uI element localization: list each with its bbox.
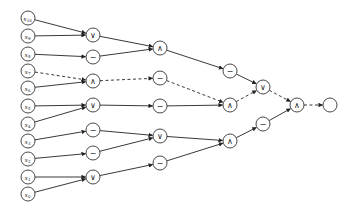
or-operator-icon: ∨ bbox=[90, 101, 96, 110]
neg-gate-node: − bbox=[86, 123, 100, 137]
edge-x5-to-g1d bbox=[35, 105, 86, 106]
output-node bbox=[323, 98, 337, 112]
edge-g3a-to-g4a bbox=[236, 74, 256, 84]
edge-g4b-to-g5a bbox=[269, 109, 290, 121]
edge-g1b-to-g2a bbox=[100, 49, 153, 56]
edge-x3-to-g1e bbox=[35, 131, 86, 140]
edge-x2-to-g1f bbox=[35, 154, 86, 159]
edge-g1f-to-g2d bbox=[100, 138, 153, 151]
edge-g1g-to-g2e bbox=[100, 165, 153, 176]
and-operator-icon: ∧ bbox=[157, 44, 163, 53]
neg-gate-node: − bbox=[153, 99, 167, 113]
neg-operator-icon: − bbox=[227, 67, 234, 76]
and-gate-node: ∧ bbox=[153, 41, 167, 55]
edge-g2c-to-g3b bbox=[167, 105, 223, 106]
neg-operator-icon: − bbox=[90, 53, 97, 62]
or-gate-node: ∨ bbox=[86, 98, 100, 112]
edge-g1e-to-g2d bbox=[100, 131, 153, 136]
input-node-x2: x2 bbox=[21, 152, 35, 166]
input-node-x3: x3 bbox=[21, 134, 35, 148]
or-operator-icon: ∨ bbox=[90, 173, 96, 182]
edges-layer bbox=[35, 20, 323, 192]
and-gate-node: ∧ bbox=[223, 134, 237, 148]
edge-x9-to-g1a bbox=[35, 35, 86, 36]
edge-g2a-to-g3a bbox=[167, 50, 223, 68]
neg-operator-icon: − bbox=[260, 120, 267, 129]
edge-x0-to-g1g bbox=[35, 179, 86, 192]
edge-g2e-to-g3c bbox=[167, 143, 223, 161]
and-gate-node: ∧ bbox=[290, 98, 304, 112]
edge-g1c-to-g2b bbox=[100, 78, 153, 80]
edge-g3c-to-g4b bbox=[236, 127, 256, 137]
neg-gate-node: − bbox=[153, 71, 167, 85]
input-node-x10: x10 bbox=[21, 11, 35, 25]
and-gate-node: ∧ bbox=[223, 98, 237, 112]
or-gate-node: ∨ bbox=[86, 28, 100, 42]
neg-gate-node: − bbox=[223, 64, 237, 78]
or-operator-icon: ∨ bbox=[157, 132, 163, 141]
neg-operator-icon: − bbox=[157, 102, 164, 111]
input-node-x9: x9 bbox=[21, 29, 35, 43]
or-operator-icon: ∨ bbox=[260, 83, 266, 92]
edge-g1a-to-g2a bbox=[100, 36, 153, 46]
edge-x6-to-g1c bbox=[35, 82, 86, 87]
edge-x4-to-g1d bbox=[35, 107, 86, 122]
input-node-x4: x4 bbox=[21, 117, 35, 131]
or-gate-node: ∨ bbox=[153, 129, 167, 143]
edge-x10-to-g1a bbox=[35, 20, 86, 33]
neg-operator-icon: − bbox=[157, 74, 164, 83]
edge-x7-to-g1c bbox=[35, 72, 86, 80]
neg-operator-icon: − bbox=[90, 126, 97, 135]
edge-g4a-to-g5a bbox=[269, 90, 290, 101]
or-operator-icon: ∨ bbox=[90, 31, 96, 40]
edge-g2d-to-g3c bbox=[167, 136, 223, 140]
edge-g1d-to-g2c bbox=[100, 105, 153, 106]
edge-g3b-to-g4a bbox=[236, 91, 256, 102]
or-gate-node: ∨ bbox=[256, 80, 270, 94]
input-node-x1: x1 bbox=[21, 170, 35, 184]
neg-gate-node: − bbox=[86, 146, 100, 160]
edge-x8-to-g1b bbox=[35, 54, 86, 56]
input-node-x5: x5 bbox=[21, 99, 35, 113]
and-gate-node: ∧ bbox=[86, 74, 100, 88]
and-operator-icon: ∧ bbox=[90, 77, 96, 86]
edge-g2b-to-g3b bbox=[167, 81, 223, 103]
and-operator-icon: ∧ bbox=[227, 137, 233, 146]
input-node-x7: x7 bbox=[21, 64, 35, 78]
input-node-x0: x0 bbox=[21, 187, 35, 201]
and-operator-icon: ∧ bbox=[294, 101, 300, 110]
input-node-x8: x8 bbox=[21, 47, 35, 61]
neg-gate-node: − bbox=[153, 156, 167, 170]
neg-gate-node: − bbox=[256, 117, 270, 131]
input-node-x6: x6 bbox=[21, 81, 35, 95]
and-operator-icon: ∧ bbox=[227, 101, 233, 110]
or-gate-node: ∨ bbox=[86, 170, 100, 184]
circuit-diagram: x10x9x8x7x6x5x4x3x2x1x0∨−∧∨−−∨∧−−∨−−∧∧∨−… bbox=[0, 0, 351, 214]
neg-gate-node: − bbox=[86, 50, 100, 64]
neg-operator-icon: − bbox=[90, 149, 97, 158]
neg-operator-icon: − bbox=[157, 159, 164, 168]
